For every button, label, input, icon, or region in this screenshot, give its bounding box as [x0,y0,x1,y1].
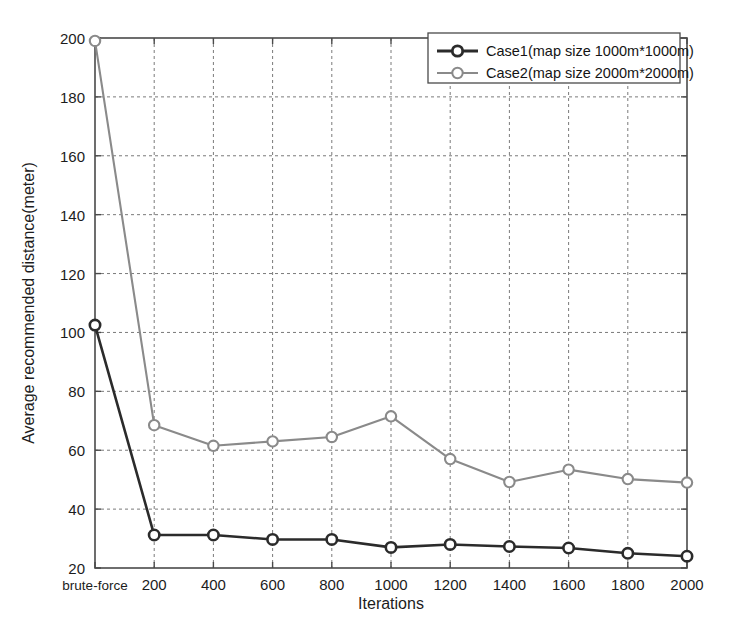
x-tick-label: 600 [260,576,285,593]
data-point-marker [386,542,396,552]
data-point-marker [327,534,337,544]
y-tick-label: 80 [68,383,85,400]
x-tick-label: 1800 [611,576,644,593]
chart-legend[interactable]: Case1(map size 1000m*1000m)Case2(map siz… [428,33,694,83]
data-point-marker [208,441,218,451]
y-tick-label: 160 [60,148,85,165]
data-point-marker [682,477,692,487]
y-tick-label: 180 [60,89,85,106]
data-point-marker [623,474,633,484]
x-axis-tick-labels: brute-force20040060080010001200140016001… [62,576,703,593]
data-point-marker [149,420,159,430]
legend-marker-swatch [452,46,462,56]
x-tick-label: brute-force [62,578,127,593]
data-point-marker [445,539,455,549]
y-tick-label: 120 [60,266,85,283]
x-tick-label: 1200 [434,576,467,593]
y-tick-label: 40 [68,501,85,518]
data-point-marker [267,534,277,544]
x-axis-title: Iterations [358,595,424,612]
y-axis-title: Average recommended distance(meter) [20,162,37,444]
x-tick-label: 1600 [552,576,585,593]
y-tick-label: 60 [68,442,85,459]
data-point-marker [327,432,337,442]
y-tick-label: 20 [68,560,85,577]
legend-label: Case1(map size 1000m*1000m) [486,43,694,59]
legend-label: Case2(map size 2000m*2000m) [486,65,694,81]
y-tick-label: 200 [60,30,85,47]
data-point-marker [267,436,277,446]
x-tick-label: 800 [319,576,344,593]
x-tick-label: 2000 [670,576,703,593]
data-point-marker [563,464,573,474]
data-point-marker [386,411,396,421]
data-point-marker [623,548,633,558]
legend-marker-swatch [452,68,462,78]
x-tick-label: 400 [201,576,226,593]
data-point-marker [149,530,159,540]
x-tick-label: 1000 [374,576,407,593]
y-tick-label: 140 [60,207,85,224]
data-point-marker [90,36,100,46]
data-point-marker [504,477,514,487]
line-chart: 20406080100120140160180200 brute-force20… [0,0,737,630]
data-point-marker [445,454,455,464]
chart-figure: 20406080100120140160180200 brute-force20… [0,0,737,630]
data-point-marker [90,320,100,330]
y-axis-tick-labels: 20406080100120140160180200 [60,30,85,577]
data-point-marker [208,530,218,540]
data-point-marker [504,541,514,551]
data-point-marker [682,551,692,561]
y-tick-label: 100 [60,324,85,341]
data-point-marker [563,543,573,553]
x-tick-label: 1400 [493,576,526,593]
x-tick-label: 200 [142,576,167,593]
